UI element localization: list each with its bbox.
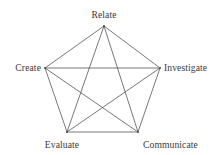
edge-investigate-evaluate [67, 68, 160, 132]
edge-investigate-communicate [138, 68, 160, 132]
pentagram-graphic [0, 0, 222, 155]
vertex-communicate [137, 131, 139, 133]
edge-layer [45, 26, 160, 132]
node-label-investigate: Investigate [164, 63, 207, 73]
vertex-evaluate [66, 131, 68, 133]
vertex-relate [103, 25, 105, 27]
node-label-relate: Relate [91, 10, 116, 20]
edge-relate-communicate [104, 26, 138, 132]
node-label-evaluate: Evaluate [45, 140, 79, 150]
edge-relate-investigate [104, 26, 160, 68]
vertex-create [44, 67, 46, 69]
node-label-communicate: Communicate [143, 140, 198, 150]
edge-communicate-create [45, 68, 138, 132]
vertex-investigate [159, 67, 161, 69]
edge-evaluate-create [45, 68, 67, 132]
node-label-create: Create [15, 63, 41, 73]
pentagram-diagram: Relate Investigate Communicate Evaluate … [0, 0, 222, 155]
edge-create-relate [45, 26, 104, 68]
edge-relate-evaluate [67, 26, 104, 132]
